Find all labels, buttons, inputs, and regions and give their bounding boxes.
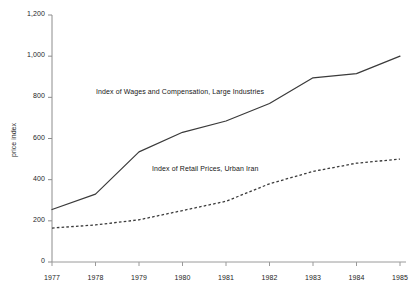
y-axis-tick-label: 1,000 — [27, 51, 45, 58]
x-axis-tick-label: 1979 — [129, 274, 149, 281]
y-axis-tick-label: 1,200 — [27, 10, 45, 17]
y-axis-title: price index — [10, 123, 18, 157]
x-axis-tick-label: 1984 — [347, 274, 367, 281]
y-axis-ticks — [48, 15, 52, 262]
line-chart-plot: price index — [0, 0, 416, 295]
series-annotation-label: Index of Retail Prices, Urban Iran — [152, 165, 259, 172]
y-axis-tick-label: 600 — [33, 134, 45, 141]
x-axis-tick-label: 1982 — [260, 274, 280, 281]
series-annotation-label: Index of Wages and Compensation, Large I… — [96, 88, 264, 95]
x-axis-tick-label: 1983 — [303, 274, 323, 281]
x-axis-tick-label: 1977 — [42, 274, 62, 281]
x-axis-tick-label: 1981 — [216, 274, 236, 281]
y-axis-tick-label: 200 — [33, 216, 45, 223]
chart-container: price index 02004006008001,0001,200 1977… — [0, 0, 416, 295]
x-axis-tick-label: 1978 — [86, 274, 106, 281]
y-axis-tick-label: 800 — [33, 92, 45, 99]
x-axis-tick-label: 1985 — [390, 274, 410, 281]
y-axis-tick-label: 400 — [33, 175, 45, 182]
series-line-wages — [52, 56, 400, 209]
x-axis-tick-label: 1980 — [173, 274, 193, 281]
y-axis-tick-label: 0 — [41, 257, 45, 264]
x-axis-ticks — [52, 262, 400, 266]
